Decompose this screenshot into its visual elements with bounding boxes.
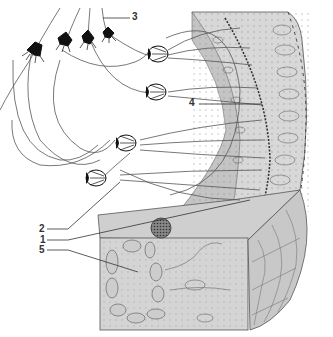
neuron-body-1 (27, 42, 42, 56)
neuron-body-2 (58, 32, 72, 46)
epithelium-illustration (0, 0, 333, 337)
tuft-4 (86, 170, 106, 186)
label-5: 5 (39, 245, 45, 255)
tuft-3 (116, 135, 136, 151)
label-4: 4 (189, 98, 195, 108)
tissue-block (98, 190, 307, 330)
label-2: 2 (39, 224, 45, 234)
diagram-canvas: 3 4 2 1 5 (0, 0, 333, 337)
tuft-1 (148, 46, 168, 62)
epithelium-band (180, 12, 310, 212)
label-3: 3 (132, 12, 138, 22)
fiber-tufts (86, 46, 168, 186)
tuft-2 (146, 84, 166, 100)
